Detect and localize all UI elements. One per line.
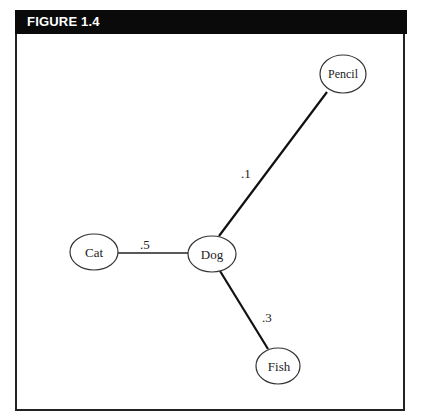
network-diagram: .5 .1 .3 Cat Dog Pencil Fish	[0, 0, 422, 420]
edge-dog-pencil	[219, 92, 327, 236]
node-label-cat: Cat	[85, 245, 103, 260]
node-fish: Fish	[256, 348, 300, 384]
edge-label-dog-pencil: .1	[241, 166, 251, 181]
node-cat: Cat	[70, 234, 118, 270]
node-pencil: Pencil	[320, 55, 366, 93]
node-label-fish: Fish	[268, 359, 291, 374]
edge-dog-fish	[220, 271, 268, 349]
node-dog: Dog	[188, 236, 236, 272]
node-label-dog: Dog	[201, 247, 224, 262]
edge-label-dog-fish: .3	[262, 310, 272, 325]
edge-label-cat-dog: .5	[140, 237, 150, 252]
node-label-pencil: Pencil	[328, 67, 359, 81]
